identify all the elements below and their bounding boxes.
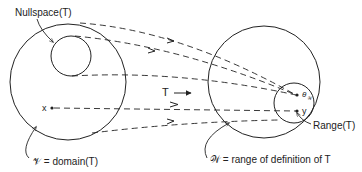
theta-subscript: 𝒲 — [307, 95, 313, 101]
mapping-label: T — [162, 86, 169, 98]
nullspace-pointer — [37, 19, 53, 42]
mapping-arrows — [54, 23, 296, 133]
x-point — [50, 106, 53, 109]
x-label: x — [42, 103, 47, 113]
linear-map-diagram: T x θ 𝒲 y Nullspace(T) Range(T) 𝒱 = doma… — [0, 0, 362, 172]
domain-circle — [10, 24, 126, 140]
domain-pointer — [26, 127, 36, 158]
range-definition-pointer — [205, 123, 229, 158]
domain-label: 𝒱 = domain(T) — [33, 156, 98, 167]
y-point — [295, 109, 298, 112]
y-label: y — [302, 106, 307, 116]
arrowheads — [148, 38, 178, 124]
range-definition-label: 𝒲 = range of definition of T — [210, 154, 331, 165]
range-circle — [274, 83, 314, 123]
range-label: Range(T) — [313, 120, 355, 131]
theta-point — [295, 93, 298, 96]
nullspace-label: Nullspace(T) — [15, 7, 72, 18]
nullspace-circle — [51, 36, 91, 76]
